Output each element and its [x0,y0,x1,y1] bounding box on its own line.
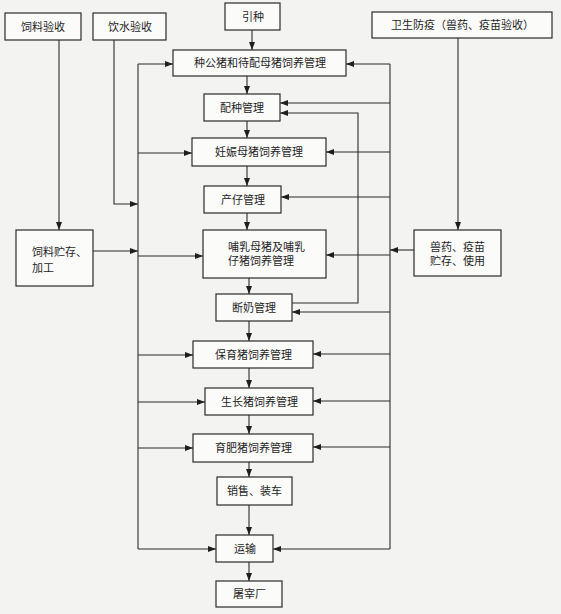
node-water-acceptance: 饮水验收 [93,13,166,40]
node-breeding: 配种管理 [204,94,280,121]
node-label: 销售、装车 [227,484,282,498]
node-label-line-1: 哺乳母猪及哺乳 [228,241,305,254]
node-nursery: 保育猪饲养管理 [193,341,313,368]
node-vet-storage: 兽药、疫苗 贮存、使用 [414,230,501,276]
node-pregnant: 妊娠母猪饲养管理 [192,138,326,166]
node-label: 保育猪饲养管理 [215,348,292,362]
right-vet-connectors [273,38,458,549]
node-label-line-2: 贮存、使用 [430,254,485,268]
node-label: 产仔管理 [221,193,265,207]
node-slaughter: 屠宰厂 [216,581,282,607]
node-label-line-1: 饲料贮存、 [32,245,87,259]
node-weaning: 断奶管理 [216,294,292,321]
node-farrowing: 产仔管理 [204,186,281,213]
node-label-line-2: 仔猪饲养管理 [228,254,294,268]
node-label: 生长猪饲养管理 [221,395,298,409]
node-label: 运输 [234,542,256,556]
node-label-line-2: 加工 [32,262,54,275]
node-label: 引种 [242,10,264,24]
node-feed-acceptance: 饲料验收 [5,13,81,40]
pig-farm-management-flowchart: 饲料验收 饮水验收 引种 卫生防疫（兽药、疫苗验收） 种公猪和待配母猪饲养管理 … [0,0,561,614]
node-label: 断奶管理 [232,301,276,315]
node-lactation: 哺乳母猪及哺乳 仔猪饲养管理 [203,230,326,278]
node-label-line-1: 兽药、疫苗 [430,240,485,254]
node-feed-storage: 饲料贮存、 加工 [16,230,93,286]
node-hygiene: 卫生防疫（兽药、疫苗验收） [372,12,552,38]
arrow-water-to-trunk [114,40,138,204]
left-supply-connectors [59,40,216,549]
node-label: 妊娠母猪饲养管理 [215,145,303,159]
node-sales: 销售、装车 [217,477,292,505]
node-label: 育肥猪饲养管理 [215,441,292,455]
node-label: 配种管理 [220,101,264,115]
node-label: 饮水验收 [108,20,152,34]
node-label: 卫生防疫（兽药、疫苗验收） [391,18,534,32]
node-transport: 运输 [216,535,273,562]
node-label: 种公猪和待配母猪饲养管理 [194,56,326,70]
node-growing: 生长猪饲养管理 [205,388,313,415]
node-boar-sow: 种公猪和待配母猪饲养管理 [173,50,346,76]
node-label: 屠宰厂 [233,587,266,601]
node-label: 饲料验收 [21,20,65,34]
node-finishing: 育肥猪饲养管理 [193,434,313,462]
node-introduction: 引种 [225,3,280,30]
